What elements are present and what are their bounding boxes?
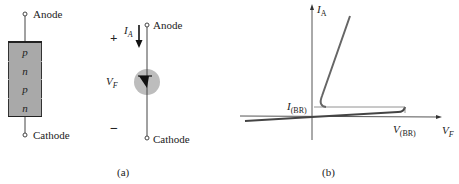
y-axis-arrow-icon	[310, 4, 314, 10]
plot-graphics	[0, 0, 459, 184]
breakover-current-label: I(BR)	[287, 101, 307, 116]
caption-b: (b)	[322, 167, 335, 178]
y-axis-label: IA	[317, 4, 326, 19]
breakover-voltage-label: V(BR)	[393, 124, 416, 139]
on-state-curve	[321, 16, 350, 107]
x-axis-arrow-icon	[436, 115, 442, 119]
x-axis-label: VF	[442, 125, 454, 140]
forward-blocking-curve	[245, 107, 405, 121]
